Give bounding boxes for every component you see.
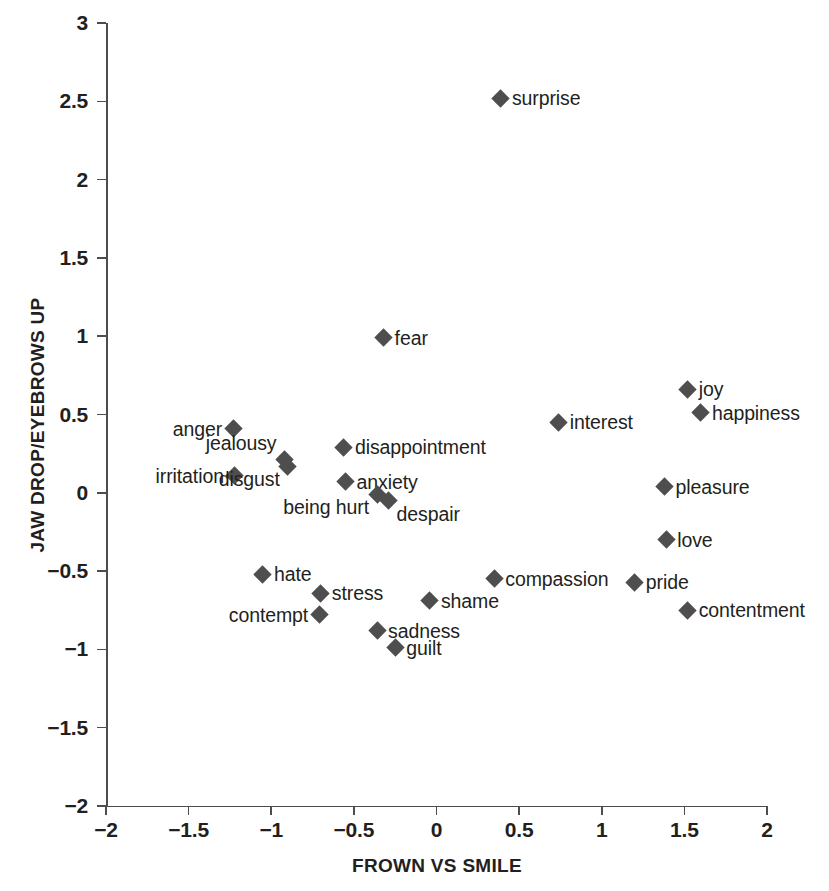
data-point-label: pleasure: [676, 478, 750, 498]
x-tick-mark: [436, 806, 438, 815]
y-tick-mark: [97, 570, 106, 572]
diamond-marker-icon: [692, 404, 710, 422]
x-tick-label: −2: [71, 818, 141, 842]
x-tick-mark: [188, 806, 190, 815]
diamond-marker-icon: [550, 413, 568, 431]
y-tick-label: −1.5: [28, 716, 88, 740]
data-point-label: fear: [395, 329, 428, 349]
data-point-label: contempt: [229, 606, 308, 626]
x-tick-label: 1.5: [649, 818, 719, 842]
y-tick-label: 2.5: [28, 89, 88, 113]
data-point-label: being hurt: [283, 498, 369, 518]
diamond-marker-icon: [374, 329, 392, 347]
data-point-label: happiness: [712, 404, 800, 424]
data-point-label: compassion: [505, 570, 608, 590]
diamond-marker-icon: [312, 584, 330, 602]
x-tick-label: −1: [236, 818, 306, 842]
data-point-label: anxiety: [357, 473, 418, 493]
data-point-label: disgust: [219, 470, 280, 490]
data-point-label: joy: [699, 380, 724, 400]
data-point-label: surprise: [512, 89, 581, 109]
x-tick-label: 0: [402, 818, 472, 842]
diamond-marker-icon: [626, 573, 644, 591]
x-tick-label: −0.5: [319, 818, 389, 842]
y-tick-mark: [97, 335, 106, 337]
y-tick-mark: [97, 179, 106, 181]
y-tick-mark: [97, 492, 106, 494]
y-tick-label: 3: [28, 11, 88, 35]
data-point-label: shame: [441, 592, 499, 612]
diamond-marker-icon: [678, 380, 696, 398]
diamond-marker-icon: [421, 592, 439, 610]
y-tick-mark: [97, 414, 106, 416]
y-tick-mark: [97, 101, 106, 103]
diamond-marker-icon: [657, 531, 675, 549]
y-tick-mark: [97, 22, 106, 24]
y-axis-title: JAW DROP/EYEBROWS UP: [27, 145, 49, 705]
diamond-marker-icon: [678, 601, 696, 619]
x-axis-title: FROWN VS SMILE: [106, 855, 768, 877]
x-tick-mark: [270, 806, 272, 815]
x-tick-mark: [518, 806, 520, 815]
data-point-label: contentment: [699, 601, 805, 621]
x-tick-mark: [105, 806, 107, 815]
data-point-label: jealousy: [206, 434, 277, 454]
data-point-label: love: [677, 531, 712, 551]
data-point-label: despair: [397, 505, 460, 525]
diamond-marker-icon: [335, 438, 353, 456]
diamond-marker-icon: [254, 565, 272, 583]
data-point-label: stress: [332, 584, 383, 604]
data-point-label: disappointment: [355, 438, 486, 458]
x-tick-mark: [601, 806, 603, 815]
data-point-label: interest: [570, 413, 633, 433]
y-axis-line: [106, 23, 108, 807]
data-point-label: pride: [646, 573, 689, 593]
data-point-label: irritation: [156, 467, 224, 487]
data-point-label: guilt: [406, 639, 441, 659]
y-tick-label: −2: [28, 794, 88, 818]
diamond-marker-icon: [368, 621, 386, 639]
diamond-marker-icon: [655, 477, 673, 495]
x-tick-label: 1: [567, 818, 637, 842]
diamond-marker-icon: [310, 606, 328, 624]
diamond-marker-icon: [492, 89, 510, 107]
y-tick-mark: [97, 727, 106, 729]
x-tick-mark: [684, 806, 686, 815]
x-tick-mark: [766, 806, 768, 815]
y-tick-mark: [97, 649, 106, 651]
scatter-plot-figure: 32.521.510.50−0.5−1−1.5−2 −2−1.5−1−0.500…: [0, 0, 829, 891]
x-tick-label: 0.5: [484, 818, 554, 842]
x-tick-label: 2: [732, 818, 802, 842]
x-tick-label: −1.5: [154, 818, 224, 842]
diamond-marker-icon: [336, 473, 354, 491]
diamond-marker-icon: [485, 570, 503, 588]
y-tick-mark: [97, 257, 106, 259]
x-tick-mark: [353, 806, 355, 815]
data-point-label: hate: [274, 565, 312, 585]
